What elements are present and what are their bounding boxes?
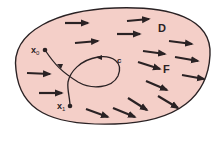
label-c: C [117, 56, 122, 65]
point-x0 [43, 48, 48, 53]
point-x1 [68, 104, 73, 109]
line-integral-diagram: x0 x1 C D F [0, 0, 221, 142]
label-f: F [163, 63, 170, 75]
label-d: D [158, 22, 166, 34]
region-d [16, 8, 211, 124]
field-arrow [27, 73, 50, 74]
